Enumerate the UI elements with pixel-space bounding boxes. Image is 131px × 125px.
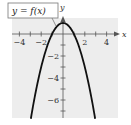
function-graph: −4−224−2−4−6 y = f(x) x y bbox=[0, 0, 131, 125]
x-tick-label: 2 bbox=[82, 38, 87, 47]
x-axis-label: x bbox=[122, 30, 127, 39]
x-tick-label: 4 bbox=[104, 38, 109, 47]
plot-background bbox=[12, 18, 118, 118]
y-tick-label: −2 bbox=[47, 52, 59, 61]
y-tick-label: −6 bbox=[47, 96, 59, 105]
x-tick-label: −2 bbox=[35, 38, 47, 47]
y-axis-label: y bbox=[59, 3, 65, 12]
function-label: y = f(x) bbox=[11, 6, 46, 16]
x-tick-label: −4 bbox=[14, 38, 26, 47]
y-tick-label: −4 bbox=[47, 74, 59, 83]
